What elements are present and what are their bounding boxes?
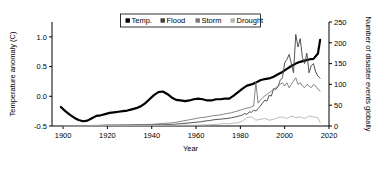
y2-tick-label: 200 (334, 39, 347, 48)
y2-tick-label: 50 (334, 101, 342, 110)
x-tick-label: 1900 (55, 131, 72, 140)
y2-tick-label: 250 (334, 18, 347, 27)
x-axis-title: Year (183, 144, 199, 153)
y-tick-label: 0.0 (37, 92, 47, 101)
x-tick-label: 1940 (143, 131, 160, 140)
y2-tick-label: 0 (334, 122, 338, 131)
y-tick-label: 1.0 (37, 33, 47, 42)
climate-disaster-chart: 19001920194019601980200020201.00.50.0-0.… (0, 0, 380, 172)
y-tick-label: 0.5 (37, 62, 47, 71)
legend-label-storm: Storm (202, 16, 222, 25)
x-tick-label: 1920 (99, 131, 116, 140)
x-tick-label: 2020 (321, 131, 338, 140)
legend-label-flood: Flood (167, 16, 186, 25)
y-axis-title: Temperature anomaly (C) (8, 31, 17, 117)
y-tick-label: -0.5 (34, 122, 47, 131)
legend-label-drought: Drought (237, 16, 265, 25)
y2-tick-label: 150 (334, 59, 347, 68)
legend-label-temp: Temp. (132, 16, 152, 25)
x-tick-label: 1980 (232, 131, 249, 140)
legend-marker-storm (196, 18, 200, 22)
legend-marker-drought (231, 18, 235, 22)
y2-axis-title: Number of disaster events globally (364, 16, 373, 131)
legend-marker-temp (126, 18, 130, 22)
y2-tick-label: 100 (334, 80, 347, 89)
x-tick-label: 1960 (188, 131, 205, 140)
legend-marker-flood (161, 18, 165, 22)
x-tick-label: 2000 (276, 131, 293, 140)
chart-canvas: 19001920194019601980200020201.00.50.0-0.… (0, 0, 380, 172)
